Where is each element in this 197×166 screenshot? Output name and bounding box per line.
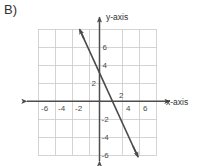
coordinate-plane-figure: -6 -4 -2 2 4 6 6 4 2 -2 -4 -6 y-axis x-a… [0, 0, 197, 166]
y-tick-label-6: 6 [103, 43, 108, 52]
y-tick-label-4: 4 [103, 61, 108, 70]
x-axis-title: x-axis [166, 97, 188, 107]
grid [38, 29, 156, 155]
graph-svg: -6 -4 -2 2 4 6 6 4 2 -2 -4 -6 y-axis x-a… [0, 0, 197, 166]
x-tick-label-neg2: -2 [75, 104, 83, 113]
x-tick-label-4: 4 [126, 104, 131, 113]
x-tick-label-neg4: -4 [58, 104, 66, 113]
x-tick-label-2: 2 [119, 91, 124, 100]
y-tick-label-neg4: -4 [102, 133, 110, 142]
y-axis-title: y-axis [106, 12, 128, 22]
y-tick-label-2: 2 [92, 79, 97, 88]
x-tick-label-6: 6 [143, 104, 148, 113]
axes [27, 17, 170, 161]
y-tick-label-neg6: -6 [102, 151, 110, 160]
y-tick-label-neg2: -2 [102, 115, 110, 124]
x-tick-label-neg6: -6 [41, 104, 49, 113]
line-arrow-start [80, 29, 85, 39]
